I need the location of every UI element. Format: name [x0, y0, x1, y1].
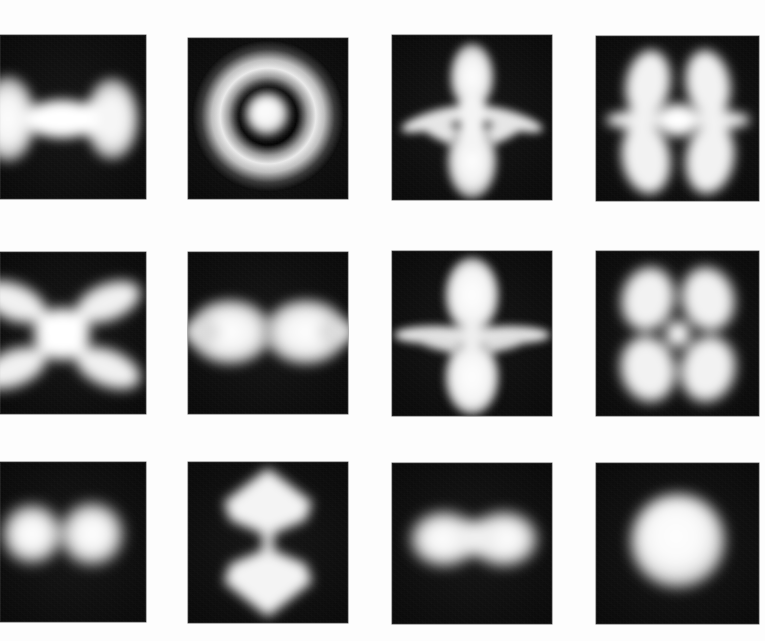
panel-r1c3[interactable]: [392, 35, 552, 200]
pattern-vertical-dumbbell-with-horizontal-side-lobes: [392, 251, 552, 416]
panel-r2c1[interactable]: [0, 252, 146, 414]
panel-r2c4[interactable]: [596, 251, 759, 416]
pattern-horizontal-double-lobe-figure-eight: [188, 252, 348, 414]
bleed-through-text: [0, 0, 765, 12]
figure-plate: [0, 0, 765, 641]
pattern-annular-ring-with-central-disk: [188, 38, 348, 199]
pattern-x-shaped-four-lobe-cross: [0, 252, 146, 414]
pattern-vertical-stacked-diamonds-hourglass: [188, 462, 348, 623]
panel-r2c2[interactable]: [188, 252, 348, 414]
pattern-six-lobe-vertical-dumbbell-with-four-diagonal-lobes: [392, 35, 552, 200]
pattern-two-horizontal-round-blobs: [0, 462, 146, 622]
pattern-horizontal-dumbbell: [0, 35, 146, 199]
pattern-butterfly-four-lobe-hourglass: [596, 251, 759, 416]
pattern-single-round-central-blob: [596, 463, 759, 624]
panel-r2c3[interactable]: [392, 251, 552, 416]
panel-r3c4[interactable]: [596, 463, 759, 624]
panel-r1c2[interactable]: [188, 38, 348, 199]
panel-r1c1[interactable]: [0, 35, 146, 199]
pattern-two-horizontal-merged-ovals: [392, 463, 552, 624]
panel-r3c3[interactable]: [392, 463, 552, 624]
panel-r1c4[interactable]: [596, 36, 759, 201]
pattern-bowtie-with-horizontal-lobes: [596, 36, 759, 201]
panel-r3c1[interactable]: [0, 462, 146, 622]
panel-r3c2[interactable]: [188, 462, 348, 623]
